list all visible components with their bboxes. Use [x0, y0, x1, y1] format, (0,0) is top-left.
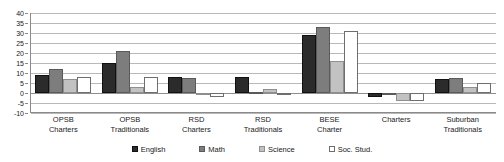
y-tick-label-10: 10 — [16, 70, 24, 77]
y-tick-mark-40 — [25, 13, 28, 14]
legend-item-math[interactable]: Math — [199, 145, 225, 154]
y-tick-mark-20 — [25, 53, 28, 54]
bar-science — [330, 61, 344, 93]
bar-math — [249, 92, 263, 94]
x-axis-label-line: RSD — [230, 115, 297, 125]
x-axis-label: RSDTraditionals — [230, 115, 297, 134]
legend-item-english[interactable]: English — [132, 145, 166, 154]
bar-chart: 4035302520151050-5-10 OPSBChartersOPSBTr… — [0, 0, 504, 162]
bar-english — [235, 77, 249, 93]
y-tick-label-20: 20 — [16, 50, 24, 57]
bar-english — [302, 35, 316, 93]
bar-math — [49, 69, 63, 93]
legend-swatch-icon — [199, 146, 205, 152]
bar-science — [463, 87, 477, 93]
bar-math — [182, 78, 196, 93]
y-tick-mark-35 — [25, 23, 28, 24]
bar-group — [163, 13, 230, 113]
y-tick-mark--10 — [25, 113, 28, 114]
y-tick-label-25: 25 — [16, 40, 24, 47]
bar-soc-stud — [477, 83, 491, 93]
bar-math — [449, 78, 463, 93]
bar-soc-stud — [144, 77, 158, 93]
y-tick-mark-25 — [25, 43, 28, 44]
legend-label: Science — [268, 145, 295, 154]
bar-group — [230, 13, 297, 113]
x-axis-label-line: Traditionals — [230, 125, 297, 135]
y-tick-label-0: 0 — [20, 90, 24, 97]
y-tick-mark-0 — [25, 93, 28, 94]
y-tick-label--10: -10 — [14, 110, 24, 117]
bar-english — [368, 93, 382, 97]
y-tick-label--5: -5 — [18, 100, 24, 107]
x-axis-label: SuburbanTraditionals — [429, 115, 496, 134]
bar-soc-stud — [77, 77, 91, 93]
bar-science — [130, 87, 144, 93]
y-axis: 4035302520151050-5-10 — [0, 13, 28, 113]
bar-group — [97, 13, 164, 113]
x-axis-label-line: Suburban — [429, 115, 496, 125]
y-tick-label-30: 30 — [16, 30, 24, 37]
gridline--10 — [31, 113, 496, 114]
bar-english — [35, 75, 49, 93]
bar-science — [196, 93, 210, 95]
legend-swatch-icon — [259, 146, 265, 152]
y-tick-label-15: 15 — [16, 60, 24, 67]
legend-swatch-icon — [329, 146, 335, 152]
legend-label: Soc. Stud. — [338, 145, 373, 154]
y-tick-label-5: 5 — [20, 80, 24, 87]
legend-item-soc-stud[interactable]: Soc. Stud. — [329, 145, 373, 154]
y-tick-mark-30 — [25, 33, 28, 34]
chart-legend: EnglishMathScienceSoc. Stud. — [0, 141, 504, 157]
x-axis-label-line: Charters — [363, 115, 430, 125]
bar-soc-stud — [410, 93, 424, 101]
legend-label: English — [141, 145, 166, 154]
bar-science — [63, 79, 77, 93]
bar-group — [429, 13, 496, 113]
bar-group — [30, 13, 97, 113]
x-axis-label-line: Traditionals — [97, 125, 164, 135]
x-axis-label-line: OPSB — [30, 115, 97, 125]
bar-science — [263, 89, 277, 93]
y-tick-mark-15 — [25, 63, 28, 64]
bar-english — [102, 63, 116, 93]
x-axis-label-line: OPSB — [97, 115, 164, 125]
legend-item-science[interactable]: Science — [259, 145, 295, 154]
y-tick-mark--5 — [25, 103, 28, 104]
x-axis-label-line: RSD — [163, 115, 230, 125]
bar-soc-stud — [277, 93, 291, 95]
bar-english — [435, 79, 449, 93]
bar-math — [116, 51, 130, 93]
x-axis-label-line: Traditionals — [429, 125, 496, 135]
x-axis-label: RSDCharters — [163, 115, 230, 134]
bar-soc-stud — [210, 93, 224, 97]
bar-science — [396, 93, 410, 101]
bar-group — [363, 13, 430, 113]
legend-swatch-icon — [132, 146, 138, 152]
x-axis-label: OPSBTraditionals — [97, 115, 164, 134]
bar-english — [168, 77, 182, 93]
bar-math — [382, 93, 396, 95]
x-axis-label: Charters — [363, 115, 430, 125]
bar-math — [316, 27, 330, 93]
x-axis-label-line: Charters — [163, 125, 230, 135]
x-axis-labels: OPSBChartersOPSBTraditionalsRSDChartersR… — [30, 115, 496, 139]
bar-group — [296, 13, 363, 113]
bars-layer — [30, 13, 496, 113]
x-axis-label-line: Charter — [296, 125, 363, 135]
bar-soc-stud — [344, 31, 358, 93]
y-tick-mark-5 — [25, 83, 28, 84]
legend-label: Math — [208, 145, 225, 154]
y-tick-label-35: 35 — [16, 20, 24, 27]
y-tick-mark-10 — [25, 73, 28, 74]
y-tick-label-40: 40 — [16, 10, 24, 17]
x-axis-label-line: Charters — [30, 125, 97, 135]
x-axis-label: OPSBCharters — [30, 115, 97, 134]
x-axis-label: BESECharter — [296, 115, 363, 134]
x-axis-label-line: BESE — [296, 115, 363, 125]
